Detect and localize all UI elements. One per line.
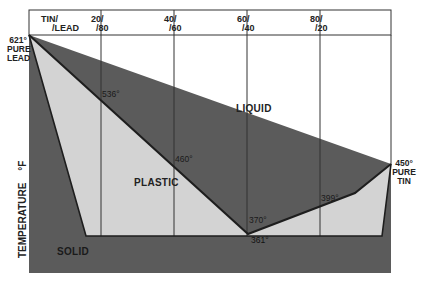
pure-lead-line2: LEAD	[7, 54, 29, 63]
header-col-20-bottom: /80	[96, 24, 109, 33]
y-axis-label: TEMPERATURE°F	[18, 161, 28, 258]
temp-370: 370°	[249, 216, 267, 225]
phase-diagram	[0, 0, 422, 283]
header-col-80-bottom: /20	[315, 24, 328, 33]
y-axis-title: TEMPERATURE	[17, 183, 28, 258]
header-col-40-bottom: /60	[169, 24, 182, 33]
temp-399: 399°	[321, 194, 339, 203]
region-plastic-label: PLASTIC	[134, 178, 179, 188]
header-frame	[29, 10, 391, 35]
header-lead-label: /LEAD	[52, 24, 79, 33]
temp-536: 536°	[102, 90, 120, 99]
temp-361: 361°	[251, 236, 269, 245]
pure-tin-label: 450° PURE TIN	[392, 159, 416, 186]
region-solid-label: SOLID	[57, 247, 89, 257]
pure-tin-line2: TIN	[392, 177, 416, 186]
region-liquid-label: LIQUID	[236, 104, 272, 114]
header-col-60-bottom: /40	[242, 24, 255, 33]
pure-lead-label: 621° PURE LEAD	[7, 36, 29, 63]
temp-460: 460°	[175, 155, 193, 164]
y-axis-unit: °F	[17, 161, 28, 171]
